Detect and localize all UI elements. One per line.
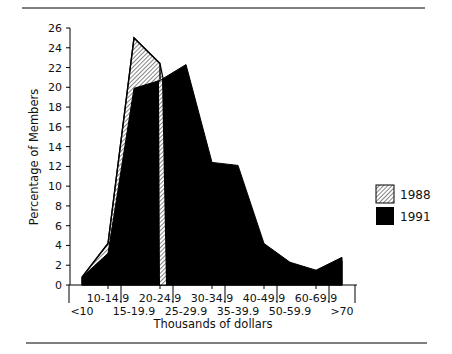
legend: 1988 1991 bbox=[376, 185, 431, 225]
y-tick-label: 16 bbox=[48, 121, 62, 134]
y-tick-label: 0 bbox=[55, 279, 62, 292]
y-tick-label: 8 bbox=[55, 200, 62, 213]
legend-label: 1991 bbox=[400, 210, 431, 224]
x-tick-label: 30-34.9 bbox=[191, 292, 233, 305]
legend-item-1991: 1991 bbox=[376, 207, 431, 225]
y-tick-label: 4 bbox=[55, 239, 62, 252]
y-tick-label: 10 bbox=[48, 180, 62, 193]
y-axis-title: Percentage of Members bbox=[27, 89, 41, 225]
y-tick-label: 22 bbox=[48, 62, 62, 75]
y-axis: 02468101214161820222426 bbox=[48, 22, 70, 292]
x-axis-title: Thousands of dollars bbox=[152, 317, 272, 331]
y-tick-label: 20 bbox=[48, 81, 62, 94]
x-tick-label: 10-14.9 bbox=[87, 292, 129, 305]
y-tick-label: 18 bbox=[48, 101, 62, 114]
y-tick-label: 26 bbox=[48, 22, 62, 35]
x-tick-label: 20-24.9 bbox=[139, 292, 181, 305]
y-tick-label: 24 bbox=[48, 42, 62, 55]
y-tick-label: 14 bbox=[48, 141, 62, 154]
y-tick-label: 6 bbox=[55, 220, 62, 233]
series-1991-area bbox=[82, 65, 342, 285]
solid-swatch-icon bbox=[376, 207, 394, 225]
x-tick-label: <10 bbox=[70, 305, 93, 318]
legend-item-1988: 1988 bbox=[376, 185, 431, 203]
x-tick-label: 40-49.9 bbox=[243, 292, 285, 305]
x-tick-label: 15-19.9 bbox=[113, 305, 155, 318]
x-axis: <1010-14.915-19.920-24.925-29.930-34.935… bbox=[69, 285, 357, 318]
series-layer bbox=[82, 38, 342, 285]
income-distribution-chart: 02468101214161820222426 <1010-14.915-19.… bbox=[0, 0, 452, 354]
x-tick-label: 60-69.9 bbox=[295, 292, 337, 305]
x-tick-label: 50-59.9 bbox=[269, 305, 311, 318]
legend-label: 1988 bbox=[400, 188, 431, 202]
hatched-swatch-icon bbox=[376, 185, 394, 203]
y-tick-label: 12 bbox=[48, 160, 62, 173]
x-tick-label: >70 bbox=[330, 305, 353, 318]
y-tick-label: 2 bbox=[55, 259, 62, 272]
